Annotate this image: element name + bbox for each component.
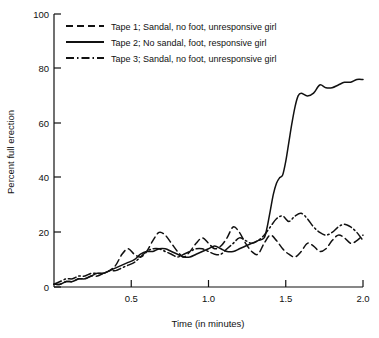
chart-figure: 100 80 60 40 20 0 0.5 1.0 1.5 2.0 Time (… — [0, 0, 379, 338]
line-chart: 100 80 60 40 20 0 0.5 1.0 1.5 2.0 Time (… — [0, 0, 379, 338]
x-axis-ticks — [131, 280, 363, 287]
y-tick-label-0: 0 — [44, 282, 49, 293]
x-tick-label-0-5: 0.5 — [125, 293, 138, 304]
y-axis-ticks — [54, 14, 61, 287]
x-tick-label-2-0: 2.0 — [356, 293, 369, 304]
y-tick-label-20: 20 — [38, 227, 49, 238]
x-tick-label-1-5: 1.5 — [279, 293, 292, 304]
y-tick-label-60: 60 — [38, 118, 49, 129]
legend-label-tape-3: Tape 3; Sandal, no foot, unresponsive gi… — [111, 54, 277, 64]
legend-label-tape-2: Tape 2; No sandal, foot, responsive girl — [111, 38, 267, 48]
chart-legend: Tape 1; Sandal, no foot, unresponsive gi… — [66, 22, 277, 64]
y-tick-label-100: 100 — [33, 9, 49, 20]
y-tick-label-40: 40 — [38, 172, 49, 183]
y-tick-label-80: 80 — [38, 63, 49, 74]
x-tick-label-1-0: 1.0 — [202, 293, 215, 304]
series-line-tape-2 — [54, 79, 363, 284]
y-axis-title: Percent full erection — [5, 110, 16, 194]
series-line-tape-1 — [54, 227, 363, 285]
legend-label-tape-1: Tape 1; Sandal, no foot, unresponsive gi… — [111, 22, 277, 32]
x-axis-title: Time (in minutes) — [171, 318, 244, 329]
